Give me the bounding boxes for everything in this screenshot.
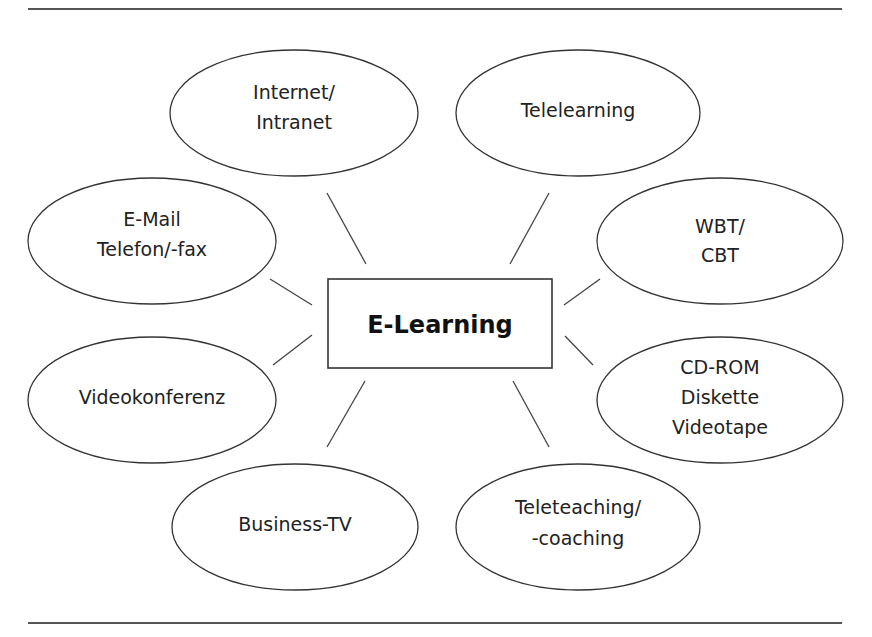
node-label-telelearning: Telelearning <box>520 99 636 121</box>
node-videokonferenz: Videokonferenz <box>28 337 276 463</box>
node-internet: Internet/Intranet <box>170 50 418 176</box>
node-wbt: WBT/CBT <box>597 178 843 304</box>
center-node: E-Learning <box>328 279 552 368</box>
node-label-teleteaching: -coaching <box>532 527 624 549</box>
connector-cdrom <box>565 336 593 365</box>
node-label-teleteaching: Teleteaching/ <box>514 496 642 518</box>
node-businesstv: Business-TV <box>172 464 418 590</box>
connector-businesstv <box>327 381 365 447</box>
node-label-cdrom: Diskette <box>681 386 759 408</box>
node-teleteaching: Teleteaching/-coaching <box>456 464 700 590</box>
node-label-wbt: WBT/ <box>695 215 745 237</box>
node-label-internet: Internet/ <box>253 81 335 103</box>
connector-teleteaching <box>513 381 549 447</box>
connector-wbt <box>564 279 600 305</box>
connector-email <box>270 279 312 305</box>
node-label-cdrom: Videotape <box>672 416 768 438</box>
connector-internet <box>327 193 366 264</box>
node-email: E-MailTelefon/-fax <box>28 178 276 304</box>
node-label-cdrom: CD-ROM <box>680 356 759 378</box>
connector-telelearning <box>510 193 549 264</box>
node-label-wbt: CBT <box>701 244 739 266</box>
node-label-email: Telefon/-fax <box>96 238 207 260</box>
ellipse-wbt <box>597 178 843 304</box>
e-learning-mind-map: Internet/IntranetTelelearningE-MailTelef… <box>0 0 872 637</box>
connector-videokonferenz <box>273 335 312 365</box>
node-label-email: E-Mail <box>123 208 180 230</box>
node-label-videokonferenz: Videokonferenz <box>79 386 226 408</box>
node-label-internet: Intranet <box>256 111 332 133</box>
node-cdrom: CD-ROMDisketteVideotape <box>597 337 843 463</box>
node-label-businesstv: Business-TV <box>238 513 352 535</box>
node-telelearning: Telelearning <box>456 50 700 176</box>
center-label: E-Learning <box>367 311 513 339</box>
